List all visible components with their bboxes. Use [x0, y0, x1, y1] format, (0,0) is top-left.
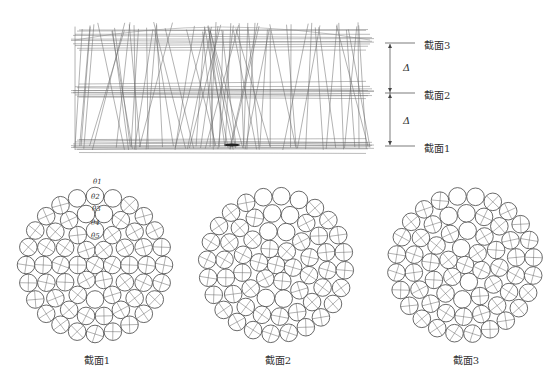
caption-section-2: 截面2 — [265, 352, 291, 367]
spacing-label-upper: Δ — [403, 62, 410, 73]
caption-section-1: 截面1 — [84, 352, 110, 367]
figure-canvas — [0, 0, 559, 383]
spacing-label-lower: Δ — [403, 115, 410, 126]
angle-label-1: θ1 — [93, 178, 102, 186]
caption-section-3: 截面3 — [453, 352, 479, 367]
angle-label-4: θ4 — [91, 219, 100, 227]
section-label-1: 截面1 — [424, 140, 450, 155]
section-label-2: 截面2 — [424, 87, 450, 102]
angle-label-3: θ3 — [92, 205, 101, 213]
angle-label-2: θ2 — [91, 193, 100, 201]
angle-label-5: θ5 — [91, 232, 100, 240]
section-label-3: 截面3 — [424, 37, 450, 52]
